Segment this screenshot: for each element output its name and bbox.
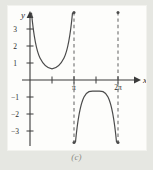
y-tick-label-2: 2 xyxy=(13,42,17,51)
y-tick-label-3: 3 xyxy=(13,25,17,34)
cosecant-graph: y x 3 2 1 −1 −2 −3 π 2π xyxy=(8,6,146,150)
x-tick-label-2pi: 2π xyxy=(114,83,122,92)
figure-container: y x 3 2 1 −1 −2 −3 π 2π (c) xyxy=(0,0,153,170)
curve-lower-branch xyxy=(76,91,117,142)
chart-panel: y x 3 2 1 −1 −2 −3 π 2π xyxy=(8,6,146,150)
x-axis-arrow-icon xyxy=(134,77,141,84)
asymptote-2pi-top-dot xyxy=(117,11,120,14)
y-tick-label-neg2: −2 xyxy=(11,110,19,119)
figure-caption: (c) xyxy=(0,152,153,162)
x-tick-label-pi: π xyxy=(72,83,76,92)
y-tick-label-neg1: −1 xyxy=(11,93,19,102)
y-axis-label: y xyxy=(20,10,25,20)
curve-upper-branch xyxy=(32,13,73,69)
y-tick-label-neg3: −3 xyxy=(11,127,19,136)
x-axis-label: x xyxy=(142,75,146,85)
y-tick-label-1: 1 xyxy=(13,59,17,68)
